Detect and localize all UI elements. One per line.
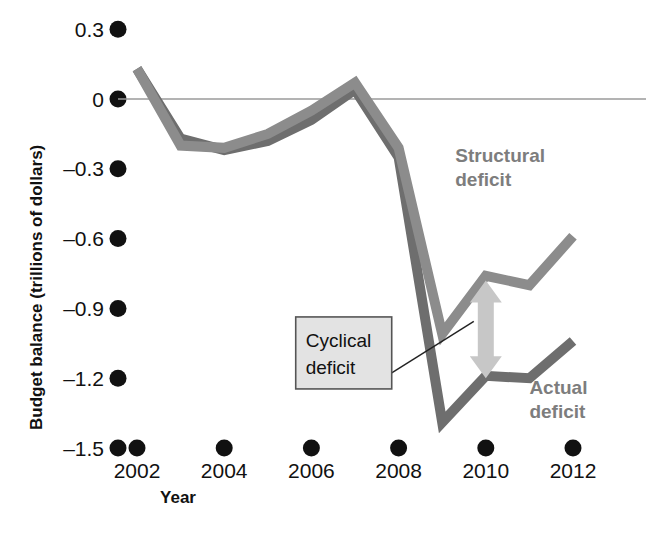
callout-box-rect (296, 317, 392, 389)
y-tick-dot (110, 300, 127, 317)
y-tick-label: –0.6 (63, 227, 104, 250)
structural-label-line-2: deficit (455, 169, 512, 190)
y-axis-title: Budget balance (trillions of dollars) (27, 145, 46, 430)
x-tick-dot (390, 440, 407, 457)
x-tick-label: 2002 (114, 459, 161, 482)
x-tick-label: 2012 (550, 459, 597, 482)
callout-line-2: deficit (306, 357, 356, 378)
y-tick-label: 0 (92, 88, 104, 111)
actual-label-line-1: Actual (529, 377, 587, 398)
cyclical-deficit-callout: Cyclical deficit (296, 317, 392, 389)
x-tick-dot (129, 440, 146, 457)
structural-label-line-1: Structural (455, 145, 545, 166)
x-tick-label: 2008 (375, 459, 422, 482)
y-tick-dot (110, 230, 127, 247)
x-tick-dot (565, 440, 582, 457)
actual-label-line-2: deficit (529, 401, 586, 422)
y-tick-dot (110, 21, 127, 38)
x-tick-label: 2006 (288, 459, 335, 482)
callout-line-1: Cyclical (306, 330, 371, 351)
y-tick-dot (110, 160, 127, 177)
x-tick-dot (477, 440, 494, 457)
y-tick-dot (110, 440, 127, 457)
x-tick-label: 2004 (201, 459, 248, 482)
x-tick-dot (303, 440, 320, 457)
budget-balance-line-chart: Budget balance (trillions of dollars) Ye… (0, 0, 658, 535)
y-tick-label: –0.3 (63, 157, 104, 180)
x-tick-label: 2010 (462, 459, 509, 482)
y-tick-dot (110, 370, 127, 387)
y-tick-label: –1.5 (63, 437, 104, 460)
y-tick-label: –1.2 (63, 367, 104, 390)
y-tick-label: –0.9 (63, 297, 104, 320)
y-tick-label: 0.3 (75, 18, 104, 41)
x-axis-title: Year (160, 488, 196, 507)
x-tick-dot (216, 440, 233, 457)
